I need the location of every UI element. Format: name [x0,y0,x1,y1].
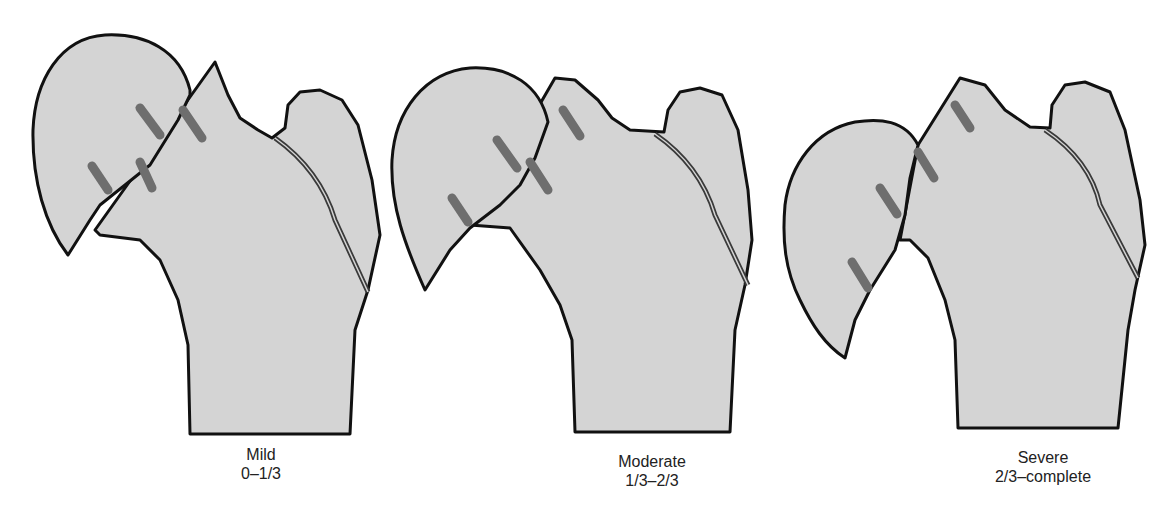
label-mild: Mild 0–1/3 [241,445,281,483]
panel-severe-femur [784,78,1145,428]
label-severe-range: 2/3–complete [995,467,1091,486]
label-moderate: Moderate 1/3–2/3 [618,452,686,490]
label-severe: Severe 2/3–complete [995,448,1091,486]
femoral-head-severe [784,120,918,358]
label-mild-title: Mild [241,445,281,464]
label-moderate-title: Moderate [618,452,686,471]
label-mild-range: 0–1/3 [241,464,281,483]
panel-moderate-femur [392,68,752,432]
femur-shaft-severe [900,78,1145,428]
label-moderate-range: 1/3–2/3 [618,471,686,490]
label-severe-title: Severe [995,448,1091,467]
panel-mild-femur [33,35,380,434]
femur-diagram [0,0,1175,515]
femoral-head-moderate [392,68,548,290]
